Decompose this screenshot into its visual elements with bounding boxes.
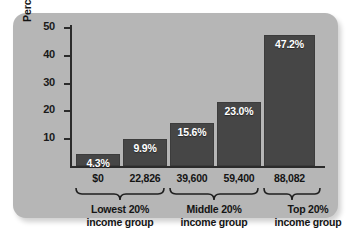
group-caption-top-line2: income group	[258, 216, 358, 229]
y-tick-label-40: 40	[43, 48, 55, 60]
bar-lowest-low: 4.3%	[76, 154, 120, 166]
y-tick-50: 50	[64, 27, 71, 29]
y-tick-label-30: 30	[43, 76, 55, 88]
brace-lowest-group	[74, 188, 166, 200]
group-caption-middle: Middle 20% income group	[164, 203, 264, 229]
y-tick-40: 40	[64, 55, 71, 57]
y-tick-label-50: 50	[43, 20, 55, 32]
group-caption-middle-line2: income group	[164, 216, 264, 229]
brace-middle-group	[168, 188, 260, 200]
x-label-2: 22,826	[123, 172, 167, 184]
chart-card: 10 20 30 40 50 4.3% 9.9% 15.6% 23.0% 47.…	[13, 13, 338, 218]
y-axis-title: Percent of total income	[21, 0, 33, 31]
group-caption-top-line1: Top 20%	[258, 203, 358, 216]
x-label-5: 88,082	[264, 172, 315, 184]
y-tick-label-20: 20	[43, 103, 55, 115]
x-label-1: $0	[76, 172, 120, 184]
group-caption-middle-line1: Middle 20%	[164, 203, 264, 216]
bar-middle-low: 15.6%	[170, 123, 214, 166]
plot-area: 10 20 30 40 50 4.3% 9.9% 15.6% 23.0% 47.…	[70, 25, 325, 168]
bar-value-label-2: 9.9%	[123, 142, 167, 154]
group-caption-lowest-line1: Lowest 20%	[70, 203, 170, 216]
bar-top: 47.2%	[264, 35, 315, 166]
y-tick-label-10: 10	[43, 131, 55, 143]
bar-value-label-5: 47.2%	[264, 38, 315, 50]
bar-value-label-1: 4.3%	[76, 157, 120, 169]
x-label-3: 39,600	[170, 172, 214, 184]
bar-value-label-4: 23.0%	[217, 105, 261, 117]
y-tick-20: 20	[64, 110, 71, 112]
brace-top-group	[262, 188, 322, 200]
bar-value-label-3: 15.6%	[170, 126, 214, 138]
bar-lowest-high: 9.9%	[123, 139, 167, 167]
group-caption-lowest: Lowest 20% income group	[70, 203, 170, 229]
group-caption-lowest-line2: income group	[70, 216, 170, 229]
y-axis-line	[70, 25, 72, 168]
y-tick-30: 30	[64, 83, 71, 85]
y-tick-10: 10	[64, 138, 71, 140]
x-label-4: 59,400	[217, 172, 261, 184]
group-caption-top: Top 20% income group	[258, 203, 358, 229]
bar-middle-high: 23.0%	[217, 102, 261, 166]
